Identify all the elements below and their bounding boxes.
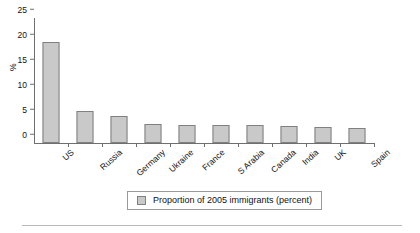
y-tick-label: 25 bbox=[18, 5, 30, 14]
legend-label: Proportion of 2005 immigrants (percent) bbox=[153, 196, 312, 205]
x-tick bbox=[374, 143, 375, 147]
bar[interactable] bbox=[281, 126, 298, 144]
bar[interactable] bbox=[247, 125, 264, 143]
x-tick bbox=[102, 143, 103, 147]
x-tick-label: Russia bbox=[99, 148, 124, 172]
bar-slot bbox=[204, 18, 238, 143]
bar[interactable] bbox=[145, 124, 162, 143]
bar[interactable] bbox=[77, 111, 94, 143]
y-tick: 25 bbox=[18, 5, 34, 14]
bar-chart: % 0510152025 USRussiaGermanyUkraineFranc… bbox=[0, 0, 420, 233]
bar-slot bbox=[340, 18, 374, 143]
x-tick bbox=[272, 143, 273, 147]
bar[interactable] bbox=[213, 125, 230, 144]
y-tick-label: 20 bbox=[18, 30, 30, 39]
bar-slot bbox=[136, 18, 170, 143]
y-tick-label: 0 bbox=[22, 130, 30, 139]
x-tick-label: US bbox=[62, 148, 76, 162]
y-axis-title: % bbox=[9, 63, 18, 71]
y-tick-label: 10 bbox=[18, 80, 30, 89]
y-tick: 15 bbox=[18, 55, 34, 64]
bar-series bbox=[34, 18, 374, 143]
x-axis-labels: USRussiaGermanyUkraineFranceS ArabiaCana… bbox=[34, 148, 374, 190]
x-tick-label: France bbox=[201, 148, 226, 172]
bar-slot bbox=[34, 18, 68, 143]
x-tick bbox=[170, 143, 171, 147]
x-tick bbox=[136, 143, 137, 147]
y-tick: 10 bbox=[18, 80, 34, 89]
bar[interactable] bbox=[179, 125, 196, 144]
y-tick-mark bbox=[30, 9, 34, 10]
y-tick: 20 bbox=[18, 30, 34, 39]
x-tick-label: UK bbox=[334, 148, 348, 162]
chart-legend: Proportion of 2005 immigrants (percent) bbox=[127, 191, 322, 210]
y-tick-label: 15 bbox=[18, 55, 30, 64]
x-tick bbox=[238, 143, 239, 147]
x-tick bbox=[204, 143, 205, 147]
legend-swatch-immigrants bbox=[137, 196, 146, 205]
bar-slot bbox=[238, 18, 272, 143]
x-tick-label: Canada bbox=[270, 148, 298, 174]
bar-slot bbox=[306, 18, 340, 143]
x-tick-label: Germany bbox=[135, 148, 167, 178]
y-tick: 5 bbox=[22, 105, 34, 114]
bar-slot bbox=[272, 18, 306, 143]
bar[interactable] bbox=[43, 42, 60, 144]
x-tick bbox=[306, 143, 307, 147]
bar-slot bbox=[170, 18, 204, 143]
bar-slot bbox=[68, 18, 102, 143]
x-tick-label: India bbox=[301, 148, 320, 167]
bar-slot bbox=[102, 18, 136, 143]
footer-divider bbox=[22, 225, 402, 226]
bar[interactable] bbox=[315, 127, 332, 144]
y-tick-label: 5 bbox=[22, 105, 30, 114]
plot-area: 0510152025 bbox=[34, 18, 374, 143]
bar[interactable] bbox=[111, 116, 128, 144]
x-tick-label: S Arabia bbox=[237, 148, 267, 176]
y-tick: 0 bbox=[22, 130, 34, 139]
bar[interactable] bbox=[349, 128, 366, 143]
x-tick-label: Ukraine bbox=[168, 148, 195, 174]
x-tick-label: Spain bbox=[370, 148, 392, 169]
